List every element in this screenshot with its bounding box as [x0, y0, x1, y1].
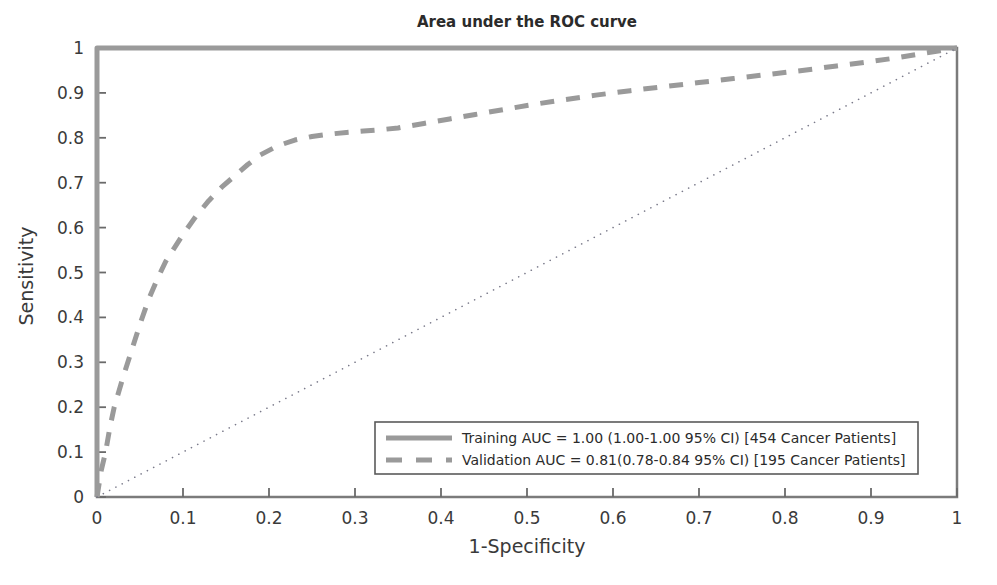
chart-legend[interactable]: Training AUC = 1.00 (1.00-1.00 95% CI) […	[375, 422, 918, 474]
x-tick-label-10: 1	[952, 508, 963, 528]
x-tick-label-8: 0.8	[771, 508, 798, 528]
y-tick-label-6: 0.6	[57, 218, 84, 238]
legend-label-training: Training AUC = 1.00 (1.00-1.00 95% CI) […	[461, 430, 896, 446]
y-tick-label-10: 1	[73, 38, 84, 58]
x-tick-label-6: 0.6	[599, 508, 626, 528]
x-tick-label-1: 0.1	[169, 508, 196, 528]
x-tick-label-3: 0.3	[341, 508, 368, 528]
legend-item-training[interactable]: Training AUC = 1.00 (1.00-1.00 95% CI) […	[386, 430, 896, 446]
y-tick-label-4: 0.4	[57, 307, 84, 327]
y-tick-label-1: 0.1	[57, 442, 84, 462]
chart-title: Area under the ROC curve	[417, 13, 637, 31]
x-tick-label-0: 0	[92, 508, 103, 528]
y-tick-label-9: 0.9	[57, 83, 84, 103]
x-tick-label-2: 0.2	[255, 508, 282, 528]
legend-item-validation[interactable]: Validation AUC = 0.81(0.78-0.84 95% CI) …	[386, 452, 906, 468]
y-tick-label-0: 0	[73, 487, 84, 507]
y-tick-label-3: 0.3	[57, 352, 84, 372]
x-tick-label-7: 0.7	[685, 508, 712, 528]
y-tick-label-5: 0.5	[57, 263, 84, 283]
y-tick-label-2: 0.2	[57, 397, 84, 417]
x-tick-label-5: 0.5	[513, 508, 540, 528]
roc-chart-canvas: Area under the ROC curve 00.10.20.30.40.…	[0, 0, 997, 585]
y-tick-label-8: 0.8	[57, 128, 84, 148]
roc-figure: Area under the ROC curve 00.10.20.30.40.…	[0, 0, 997, 585]
legend-label-validation: Validation AUC = 0.81(0.78-0.84 95% CI) …	[462, 452, 906, 468]
x-tick-label-4: 0.4	[427, 508, 454, 528]
y-tick-label-7: 0.7	[57, 173, 84, 193]
y-axis-label: Sensitivity	[15, 227, 37, 326]
x-axis-label: 1-Specificity	[469, 535, 586, 557]
x-tick-label-9: 0.9	[857, 508, 884, 528]
